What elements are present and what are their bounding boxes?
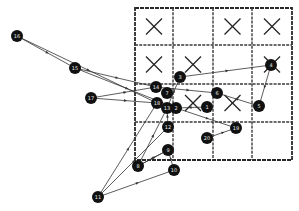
node-6: 6 [211,87,223,99]
node-label: 6 [215,90,218,96]
edge-16-18 [17,36,157,103]
node-label: 4 [269,62,272,68]
node-label: 8 [136,163,139,169]
node-label: 14 [153,84,159,90]
node-label: 7 [165,90,168,96]
node-label: 5 [257,103,260,109]
node-15: 15 [69,62,81,74]
edge-16-15 [17,36,75,68]
edge-11-10 [98,170,174,197]
node-label: 11 [95,194,101,200]
node-17: 17 [85,92,97,104]
node-9: 9 [162,144,174,156]
x-mark [264,19,280,35]
node-18: 18 [151,97,163,109]
arrowhead [206,117,209,120]
node-10: 10 [168,164,180,176]
x-mark [146,19,162,35]
node-8: 8 [132,160,144,172]
node-12: 12 [162,121,174,133]
node-3: 3 [174,71,186,83]
node-label: 10 [171,167,177,173]
node-20: 20 [201,132,213,144]
node-19: 19 [230,122,242,134]
node-label: 9 [166,147,169,153]
node-label: 19 [233,125,239,131]
arrowhead [123,91,126,94]
node-label: 12 [165,124,171,130]
node-label: 3 [178,74,181,80]
node-label: 1 [205,104,208,110]
node-14: 14 [150,81,162,93]
node-link-diagram: 1234567891011121314151617181920 [0,0,299,211]
edge-17-18 [91,98,157,103]
edge-11-12 [98,127,168,197]
arrowhead [124,99,127,102]
node-label: 16 [14,33,20,39]
node-label: 13 [164,105,170,111]
node-16: 16 [11,30,23,42]
node-label: 2 [174,105,177,111]
node-1: 1 [201,101,213,113]
x-mark [185,95,201,111]
edges [17,36,271,197]
edge-3-4 [180,65,271,77]
node-5: 5 [253,100,265,112]
x-mark [185,57,201,73]
node-11: 11 [92,191,104,203]
node-7: 7 [161,87,173,99]
arrowhead [221,132,224,135]
arrowhead [136,182,139,185]
edge-11-18 [98,103,157,197]
node-label: 18 [154,100,160,106]
x-mark [225,19,241,35]
nodes: 1234567891011121314151617181920 [11,30,277,203]
x-mark [146,57,162,73]
node-label: 17 [88,95,94,101]
node-label: 20 [204,135,210,141]
arrowhead [166,115,169,118]
node-4: 4 [265,59,277,71]
node-label: 15 [72,65,78,71]
